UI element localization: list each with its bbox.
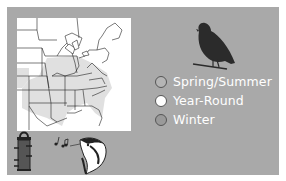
legend-label: Winter: [173, 112, 215, 127]
tube-feeder-icon: [12, 130, 36, 179]
legend-item-spring-summer: Spring/Summer: [155, 72, 272, 91]
song-notes-icon: [54, 137, 68, 148]
range-map-panel: Spring/Summer Year-Round Winter: [7, 7, 279, 175]
legend-item-winter: Winter: [155, 110, 272, 129]
us-states-map-icon: [17, 18, 131, 131]
woodpecker-song-icon: [54, 132, 114, 181]
legend-label: Year-Round: [173, 93, 244, 108]
spring-summer-swatch-icon: [155, 76, 167, 88]
season-legend: Spring/Summer Year-Round Winter: [155, 72, 272, 129]
range-map: [17, 18, 131, 131]
year-round-swatch-icon: [155, 95, 167, 107]
legend-item-year-round: Year-Round: [155, 91, 272, 110]
winter-swatch-icon: [155, 114, 167, 126]
legend-label: Spring/Summer: [173, 74, 272, 89]
bird-silhouette-icon: [187, 19, 239, 78]
